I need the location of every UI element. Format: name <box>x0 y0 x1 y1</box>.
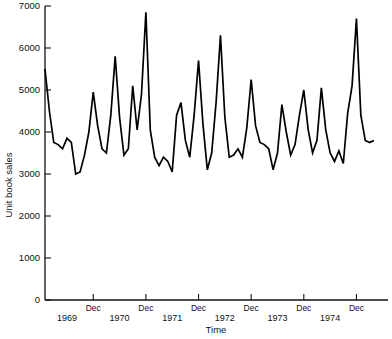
x-year-label: 1974 <box>320 313 340 323</box>
x-year-label: 1969 <box>57 313 77 323</box>
x-year-label: 1970 <box>110 313 130 323</box>
x-year-label: 1972 <box>215 313 235 323</box>
y-tick-label: 2000 <box>19 210 40 221</box>
y-axis-title: Unit book sales <box>3 152 14 217</box>
y-tick-labels: 01000200030004000500060007000 <box>19 0 40 305</box>
data-series-line <box>45 12 374 174</box>
x-tick-label: Dec <box>244 303 260 313</box>
x-axis-title: Time <box>206 324 227 335</box>
x-year-label: 1971 <box>162 313 182 323</box>
x-tick-label: Dec <box>296 303 312 313</box>
y-tick-label: 3000 <box>19 168 40 179</box>
y-tick-label: 5000 <box>19 84 40 95</box>
x-tick-labels: DecDecDecDecDecDec <box>86 303 365 313</box>
x-tick-label: Dec <box>191 303 207 313</box>
y-tick-label: 1000 <box>19 252 40 263</box>
y-tick-label: 4000 <box>19 126 40 137</box>
x-year-labels: 196919701971197219731974 <box>57 313 340 323</box>
chart-figure: 01000200030004000500060007000 DecDecDecD… <box>0 0 392 339</box>
x-tick-label: Dec <box>86 303 102 313</box>
line-chart: 01000200030004000500060007000 DecDecDecD… <box>0 0 392 339</box>
x-tick-label: Dec <box>349 303 365 313</box>
y-tick-marks <box>45 6 51 300</box>
x-year-label: 1973 <box>267 313 287 323</box>
x-tick-marks <box>93 294 356 300</box>
y-tick-label: 7000 <box>19 0 40 11</box>
x-tick-label: Dec <box>138 303 154 313</box>
y-tick-label: 6000 <box>19 42 40 53</box>
y-tick-label: 0 <box>35 294 40 305</box>
